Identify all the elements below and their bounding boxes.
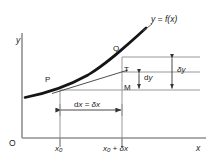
xtick-label-x0-sub: 0 bbox=[59, 147, 62, 153]
dimension-label-dy: dy bbox=[144, 74, 152, 82]
point-label-q: Q bbox=[113, 45, 119, 53]
function-label-eq: = bbox=[155, 14, 165, 24]
y-axis-label: y bbox=[16, 36, 20, 45]
dimension-label-dx-delta: δx bbox=[92, 100, 100, 109]
xtick-label-x0: x0 bbox=[55, 145, 62, 153]
function-label-leader bbox=[143, 24, 152, 31]
dimension-label-delta-y: δy bbox=[177, 66, 185, 74]
point-label-t: T bbox=[124, 66, 129, 74]
dimension-label-dx-eq: = bbox=[82, 100, 91, 109]
dimension-label-dy-var: y bbox=[148, 73, 152, 82]
dimension-label-dx: dx = δx bbox=[74, 101, 100, 109]
function-label: y = f(x) bbox=[151, 15, 177, 24]
origin-label: O bbox=[9, 139, 16, 148]
function-label-rhs: f(x) bbox=[165, 14, 177, 24]
point-label-p: P bbox=[45, 76, 50, 84]
point-label-m: M bbox=[124, 84, 131, 92]
diagram-svg bbox=[0, 0, 213, 167]
figure-canvas: y O x P Q T M y = f(x) dx = δx dy δy x0 … bbox=[0, 0, 213, 167]
dimension-label-delta-y-var: y bbox=[181, 65, 185, 74]
xtick-label-x0-plus-dx: x0 + δx bbox=[103, 145, 128, 153]
x-axis-label: x bbox=[196, 144, 200, 153]
xtick-label-x0-plus-dx-suffix: + δx bbox=[110, 144, 128, 153]
